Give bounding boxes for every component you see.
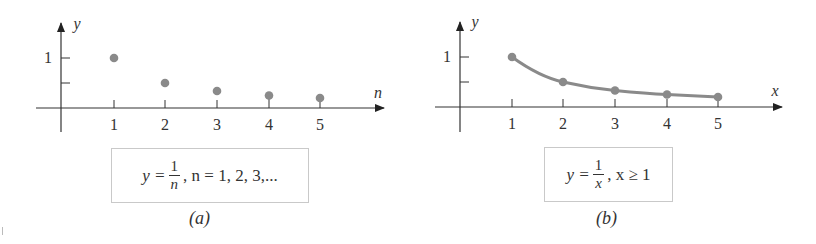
x-tick-label: 5 [316, 116, 324, 133]
caption-a: (a) [189, 208, 210, 229]
svg-text:3: 3 [611, 115, 619, 132]
fraction: 1 n [169, 159, 181, 192]
data-points [110, 54, 325, 103]
svg-text:x: x [770, 82, 778, 99]
point [316, 94, 325, 103]
svg-text:1: 1 [443, 48, 451, 65]
formula-lhs: y = [566, 165, 589, 185]
x-tick-label: 2 [161, 116, 169, 133]
chart-a: 1 2 3 4 5 1 y n [36, 15, 384, 133]
x-axis-label: n [374, 84, 382, 101]
divider-mark [2, 227, 3, 235]
point [213, 87, 222, 96]
svg-text:5: 5 [714, 115, 722, 132]
formula-box-a: y = 1 n , n = 1, 2, 3,... [111, 148, 309, 203]
figure-canvas: 1 2 3 4 5 1 y n [0, 0, 816, 244]
x-tick-label: 3 [213, 116, 221, 133]
y-ticks [61, 58, 70, 83]
formula-lhs: y = [142, 166, 165, 186]
svg-text:4: 4 [663, 115, 671, 132]
y-axis-label: y [71, 15, 81, 33]
x-ticks [114, 95, 320, 108]
formula-rest: , x ≥ 1 [607, 165, 650, 185]
chart-b: 1 2 3 4 5 1 y x [435, 13, 782, 132]
svg-text:2: 2 [559, 115, 567, 132]
caption-b: (b) [596, 208, 617, 229]
y-tick-label: 1 [44, 49, 52, 66]
point [110, 54, 119, 63]
svg-text:1: 1 [508, 115, 516, 132]
formula-rest: , n = 1, 2, 3,... [183, 166, 278, 186]
formula-box-b: y = 1 x , x ≥ 1 [544, 147, 673, 202]
x-tick-label: 1 [110, 116, 118, 133]
x-tick-label: 4 [265, 116, 273, 133]
point [265, 91, 274, 100]
point [161, 79, 170, 88]
svg-text:y: y [469, 13, 479, 31]
fraction: 1 x [593, 158, 605, 191]
